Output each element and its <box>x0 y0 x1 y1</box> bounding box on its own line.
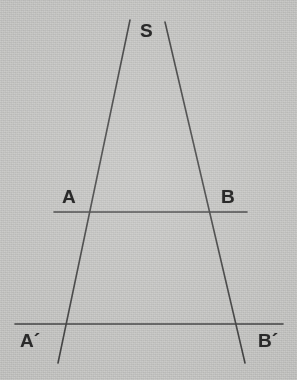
figure-drawing <box>0 0 297 380</box>
label-point-b-prime: B´ <box>258 331 278 350</box>
label-apex-s: S <box>140 21 153 40</box>
label-point-a-prime: A´ <box>20 331 40 350</box>
label-point-b: B <box>221 187 235 206</box>
geometry-figure: S A B A´ B´ <box>0 0 297 380</box>
label-point-a: A <box>62 187 76 206</box>
